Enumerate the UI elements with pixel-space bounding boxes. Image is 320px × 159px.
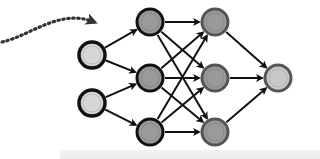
node-hidden-1-h2 (137, 65, 163, 91)
node-hidden-2-g3 (202, 119, 228, 145)
node-output-o1 (265, 65, 291, 91)
edge-i2-h2 (106, 84, 136, 97)
node-hidden-2-g1 (202, 9, 228, 35)
incoming-dotted-arrow (2, 18, 94, 42)
node-input-i1 (79, 42, 105, 68)
neural-network-diagram (0, 0, 320, 159)
edge-i1-h2 (106, 61, 135, 73)
edge-i1-h1 (105, 30, 136, 48)
edge-i2-h3 (105, 110, 135, 125)
node-hidden-2-g2 (202, 65, 228, 91)
edge-g1-o1 (226, 32, 266, 67)
node-hidden-1-h1 (137, 9, 163, 35)
node-hidden-1-h3 (137, 119, 163, 145)
connection-edges (105, 22, 266, 132)
edge-g3-o1 (226, 88, 265, 122)
node-input-i2 (79, 90, 105, 116)
